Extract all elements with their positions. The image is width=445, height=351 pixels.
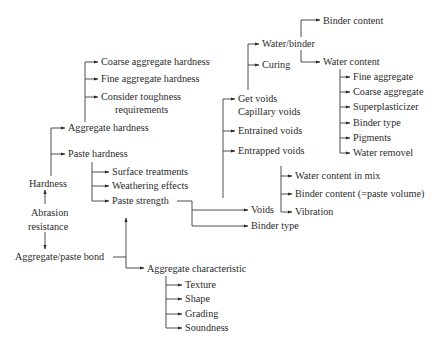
node-abrasion-resistance: Abrasion [31, 207, 68, 218]
connector-entrapped-voids-children [281, 166, 292, 212]
node-water-binder: Water/binder [262, 38, 316, 49]
node-surface-treatments: Surface treatments [112, 166, 188, 177]
node-binder-content-paste-volume: Binder content (=paste volume) [295, 188, 424, 200]
connector-paste-hardness-children [92, 162, 109, 201]
node-superplasticizer: Superplasticizer [353, 101, 419, 112]
node-water-content: Water content [323, 56, 380, 67]
connector-aggregate-hardness-children [85, 62, 98, 122]
connector-water-content-children [340, 69, 350, 153]
connector-aggregate-characteristic-children [166, 276, 182, 328]
node-water-removel: Water removel [353, 147, 413, 158]
connector-bond-to-paste-strength [113, 218, 126, 257]
node-binder-type-wc: Binder type [353, 117, 401, 128]
node-fine-aggregate: Fine aggregate [353, 71, 414, 82]
node-consider-toughness: Consider toughness [101, 91, 181, 102]
node-fine-aggregate-hardness: Fine aggregate hardness [101, 73, 199, 84]
node-paste-strength: Paste strength [112, 195, 169, 206]
node-aggregate-paste-bond: Aggregate/paste bond [15, 251, 104, 262]
node-shape: Shape [185, 293, 210, 304]
node-hardness: Hardness [29, 178, 67, 189]
node-weathering-effects: Weathering effects [112, 180, 188, 191]
connector-voids-to-void-types [223, 99, 235, 198]
connector-water-binder-to-water-content [301, 50, 320, 62]
node-grading: Grading [185, 308, 218, 319]
node-aggregate-hardness: Aggregate hardness [68, 122, 149, 133]
node-abrasion-resistance-line2: resistance [28, 221, 69, 232]
node-water-content-in-mix: Water content in mix [295, 170, 380, 181]
node-coarse-aggregate-hardness: Coarse aggregate hardness [101, 56, 210, 67]
node-consider-toughness-line2: requirements [115, 104, 168, 115]
node-binder-content: Binder content [323, 15, 383, 26]
connector-hardness-children [51, 128, 65, 176]
abrasion-resistance-diagram: Binder content Water/binder Curing Water… [0, 0, 445, 351]
node-soundness: Soundness [185, 322, 229, 333]
connector-get-voids-to-water-binder [248, 44, 259, 90]
node-aggregate-characteristic: Aggregate characteristic [147, 263, 247, 274]
node-paste-hardness: Paste hardness [68, 148, 128, 159]
node-entrained-voids: Entrained voids [238, 125, 302, 136]
node-curing: Curing [262, 59, 290, 70]
node-labels: Binder content Water/binder Curing Water… [15, 15, 424, 333]
node-texture: Texture [185, 279, 216, 290]
node-get-voids: Get voids [238, 93, 277, 104]
node-capillary-voids: Capillary voids [238, 106, 301, 117]
connector-paste-strength-children [177, 201, 248, 226]
node-binder-type: Binder type [251, 220, 299, 231]
node-voids: Voids [251, 204, 274, 215]
node-entrapped-voids: Entrapped voids [238, 145, 305, 156]
connector-bond-to-aggregate-characteristic [126, 257, 144, 268]
connector-water-binder-to-binder-content [301, 20, 320, 37]
node-pigments: Pigments [353, 132, 391, 143]
node-vibration: Vibration [295, 206, 333, 217]
node-coarse-aggregate: Coarse aggregate [353, 86, 424, 97]
